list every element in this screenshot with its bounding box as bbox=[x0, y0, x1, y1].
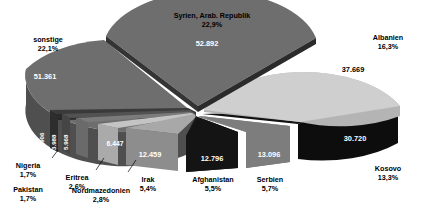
value-label-afghanistan: 12.796 bbox=[190, 154, 234, 163]
category-percent-eritrea: 2,6% bbox=[69, 182, 85, 191]
category-percent-nigeria: 1,7% bbox=[20, 170, 36, 179]
category-label-serbien: Serbien 5,7% bbox=[240, 176, 300, 193]
category-percent-albanien: 16,3% bbox=[378, 42, 398, 51]
value-label-irak: 12.459 bbox=[128, 150, 172, 159]
value-label-pakistan: 3.988 bbox=[50, 135, 57, 150]
value-label-serbien: 13.096 bbox=[248, 150, 290, 159]
category-percent-sonstige: 22,1% bbox=[38, 44, 58, 53]
category-label-nigeria: Nigeria 1,7% bbox=[6, 162, 50, 179]
category-label-kosovo: Kosovo 13,3% bbox=[352, 165, 424, 182]
value-label-eritrea: 5.968 bbox=[62, 135, 69, 150]
category-percent-pakistan: 1,7% bbox=[20, 194, 36, 203]
category-label-syrien: Syrien, Arab. Republik 22,9% bbox=[150, 12, 274, 29]
value-label-albanien: 37.669 bbox=[330, 65, 376, 74]
category-label-afghanistan: Afghanistan 5,5% bbox=[178, 176, 248, 193]
value-label-nigeria: 3.906 bbox=[38, 133, 45, 148]
pie-chart: Syrien, Arab. Republik 22,9% Albanien 16… bbox=[0, 0, 427, 215]
category-percent-syrien: 22,9% bbox=[202, 20, 222, 29]
category-percent-serbien: 5,7% bbox=[262, 184, 278, 193]
value-label-sonstige: 51.361 bbox=[22, 72, 68, 81]
value-label-syrien: 52.892 bbox=[184, 39, 230, 48]
category-label-eritrea: Eritrea 2,6% bbox=[56, 174, 98, 191]
value-label-kosovo: 30.720 bbox=[332, 134, 378, 143]
category-label-pakistan: Pakistan 1,7% bbox=[4, 186, 52, 203]
category-label-sonstige: sonstige 22,1% bbox=[14, 36, 82, 53]
value-label-nordmazedonien: 6.447 bbox=[98, 140, 132, 147]
category-percent-nordmazedonien: 2,8% bbox=[93, 195, 109, 204]
category-label-albanien: Albanien 16,3% bbox=[352, 34, 424, 51]
category-percent-kosovo: 13,3% bbox=[378, 173, 398, 182]
category-percent-afghanistan: 5,5% bbox=[205, 184, 221, 193]
